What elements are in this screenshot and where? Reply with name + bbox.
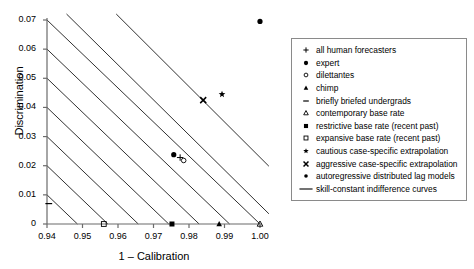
legend-item: aggressive case-specific extrapolation [296,157,462,170]
y-tick-label: 0.06 [2,43,36,53]
x-axis-label: 1 – Calibration [47,250,261,262]
y-tick-label: 0.07 [2,14,36,24]
legend-item-label: chimp [316,82,338,94]
open-triangle-icon [296,107,316,119]
filled-triangle-icon [296,82,316,94]
plus-icon [296,44,316,56]
legend-item-label: cautious case-specific extrapolation [316,145,448,157]
legend-item-label: dilettantes [316,69,354,81]
legend-item: autoregressive distributed lag models [296,170,462,183]
indifference-curve [47,107,169,224]
legend-item: cautious case-specific extrapolation [296,145,462,158]
filled-circle-icon [296,57,316,69]
legend-item: restrictive base rate (recent past) [296,120,462,133]
star-icon [296,145,316,157]
x-tick-marks [47,224,260,228]
x-tick-label: 1.00 [243,231,277,241]
filled-square-icon [296,120,316,132]
cross-x-icon [296,158,316,170]
legend-item-label: expert [316,57,339,69]
axes-group [43,18,262,228]
indifference-curve [116,14,269,166]
legend-item-label: skill-constant indifference curves [316,183,437,195]
legend-item: contemporary base rate [296,107,462,120]
data-point [257,19,262,24]
open-square-icon [296,132,316,144]
indifference-curve [47,78,199,224]
legend-item: expansive base rate (recent past) [296,132,462,145]
line-icon [296,183,316,195]
legend-item: chimp [296,82,462,95]
indifference-curve [47,137,138,224]
legend-item: skill-constant indifference curves [296,183,462,196]
indifference-curves-group [47,14,269,224]
data-point [200,97,206,103]
chart-figure: Discrimination 1 – Calibration 00.010.02… [0,0,474,269]
legend-item: briefly briefed undergrads [296,94,462,107]
x-tick-label: 0.95 [66,231,100,241]
legend: all human forecastersexpertdilettantesch… [291,38,467,201]
data-point [181,158,186,163]
indifference-curve [47,166,108,224]
x-tick-label: 0.97 [137,231,171,241]
data-point [171,152,176,157]
y-tick-label: 0.04 [2,101,36,111]
data-point [177,154,183,160]
legend-item-label: briefly briefed undergrads [316,95,411,107]
y-tick-label: 0.02 [2,160,36,170]
legend-item-label: all human forecasters [316,44,396,56]
data-point [219,91,226,97]
data-point [169,222,174,227]
y-tick-label: 0.01 [2,189,36,199]
legend-item-label: restrictive base rate (recent past) [316,120,438,132]
y-tick-label: 0 [2,218,36,228]
y-tick-label: 0.05 [2,72,36,82]
dash-icon [296,95,316,107]
y-tick-label: 0.03 [2,131,36,141]
legend-item: dilettantes [296,69,462,82]
x-tick-label: 0.96 [101,231,135,241]
plot-area: Discrimination 1 – Calibration 00.010.02… [0,0,280,269]
indifference-curve [47,195,77,224]
x-tick-label: 0.99 [208,231,242,241]
legend-item: all human forecasters [296,44,462,57]
x-tick-label: 0.94 [30,231,64,241]
open-circle-icon [296,69,316,81]
plot-svg [0,0,280,269]
x-tick-label: 0.98 [172,231,206,241]
indifference-curve [47,49,230,224]
legend-item-label: contemporary base rate [316,107,404,119]
legend-item-label: expansive base rate (recent past) [316,132,440,144]
legend-item-label: aggressive case-specific extrapolation [316,158,458,170]
legend-item: expert [296,57,462,70]
legend-item-label: autoregressive distributed lag models [316,170,455,182]
filled-circle-small-icon [296,170,316,182]
